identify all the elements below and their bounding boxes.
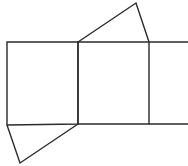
middle-square: [78, 42, 149, 124]
top-triangle: [78, 3, 149, 42]
geometric-net-diagram: [0, 0, 188, 166]
left-square: [7, 42, 78, 125]
bottom-triangle: [7, 124, 78, 163]
